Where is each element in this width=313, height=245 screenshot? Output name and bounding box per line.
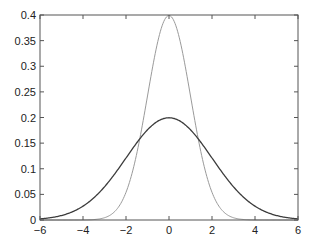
y-axis: 00.050.10.150.20.250.30.350.4 [15, 9, 298, 226]
series-line-2 [40, 118, 298, 219]
x-tick-label: 6 [295, 224, 301, 236]
y-tick-label: 0.05 [15, 188, 36, 200]
y-tick-label: 0.25 [15, 86, 36, 98]
y-tick-label: 0.3 [21, 60, 36, 72]
y-tick-label: 0.4 [21, 9, 36, 21]
y-tick-label: 0 [30, 214, 36, 226]
curves [40, 16, 298, 220]
x-tick-label: 4 [252, 224, 258, 236]
x-tick-label: 0 [166, 224, 172, 236]
chart: −6−4−20246 00.050.10.150.20.250.30.350.4 [0, 0, 313, 245]
y-tick-label: 0.35 [15, 35, 36, 47]
y-tick-label: 0.15 [15, 137, 36, 149]
x-tick-label: −4 [77, 224, 90, 236]
y-tick-label: 0.2 [21, 112, 36, 124]
x-axis: −6−4−20246 [34, 15, 301, 236]
x-tick-label: −2 [120, 224, 133, 236]
x-tick-label: 2 [209, 224, 215, 236]
y-tick-label: 0.1 [21, 163, 36, 175]
